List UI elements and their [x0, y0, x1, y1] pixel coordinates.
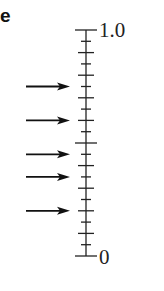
vertical-scale: 1.00	[0, 0, 164, 291]
top-tick-label: 1.0	[99, 18, 125, 42]
bottom-tick-label: 0	[99, 245, 110, 269]
